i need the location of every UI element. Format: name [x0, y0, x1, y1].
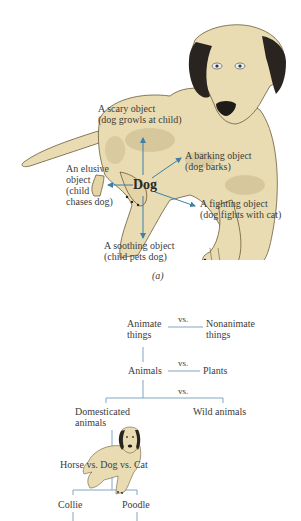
vs-level1: vs. — [178, 314, 188, 325]
node-poodle: Poodle — [122, 499, 150, 510]
animate-line-1: Animate — [127, 318, 161, 329]
node-animate-things: Animate things — [127, 318, 161, 340]
vs-level3: vs. — [178, 386, 188, 397]
node-wild-animals: Wild animals — [193, 406, 246, 417]
node-horse-dog-cat: Horse vs. Dog vs. Cat — [60, 459, 148, 470]
vs-level2: vs. — [178, 358, 188, 369]
node-collie: Collie — [58, 499, 82, 510]
domesticated-line-1: Domesticated — [75, 406, 130, 417]
node-domesticated-animals: Domesticated animals — [75, 406, 130, 428]
nonanimate-line-1: Nonanimate — [206, 318, 255, 329]
node-animals: Animals — [128, 365, 162, 376]
dog-illustration-small — [0, 0, 301, 521]
nonanimate-line-2: things — [206, 329, 255, 340]
node-plants: Plants — [203, 365, 227, 376]
node-nonanimate-things: Nonanimate things — [206, 318, 255, 340]
animate-line-2: things — [127, 329, 161, 340]
domesticated-line-2: animals — [75, 417, 130, 428]
